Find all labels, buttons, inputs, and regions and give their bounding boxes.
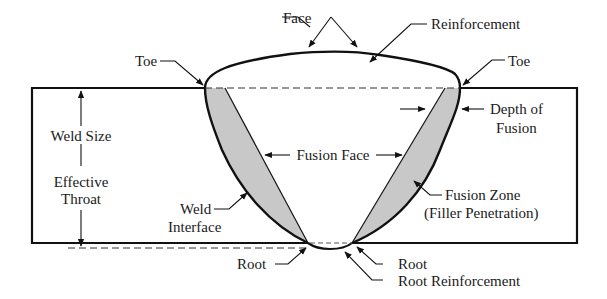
label-depth-of-fusion-1: Depth of <box>490 101 543 117</box>
label-reinforcement: Reinforcement <box>431 16 521 32</box>
label-toe-left: Toe <box>135 53 158 69</box>
label-root-left: Root <box>237 256 267 272</box>
label-root-right: Root <box>398 256 428 272</box>
label-effective-throat-1: Effective <box>54 174 109 190</box>
label-depth-of-fusion-2: Fusion <box>496 120 537 136</box>
label-face: Face <box>283 10 312 26</box>
label-effective-throat-2: Throat <box>61 191 102 207</box>
label-root-reinforcement: Root Reinforcement <box>398 273 521 289</box>
label-weld-size: Weld Size <box>51 128 112 144</box>
weld-face-curve <box>205 52 460 88</box>
label-toe-right: Toe <box>508 53 531 69</box>
label-fusion-face: Fusion Face <box>297 147 370 163</box>
label-fusion-zone-2: (Filler Penetration) <box>424 205 539 222</box>
label-weld-interface-2: Interface <box>168 219 222 235</box>
label-fusion-zone-1: Fusion Zone <box>445 187 521 203</box>
root-reinforcement-curve <box>308 243 352 249</box>
label-weld-interface-1: Weld <box>180 201 212 217</box>
weld-diagram: Face Reinforcement Toe Toe Depth of Fusi… <box>0 0 607 299</box>
